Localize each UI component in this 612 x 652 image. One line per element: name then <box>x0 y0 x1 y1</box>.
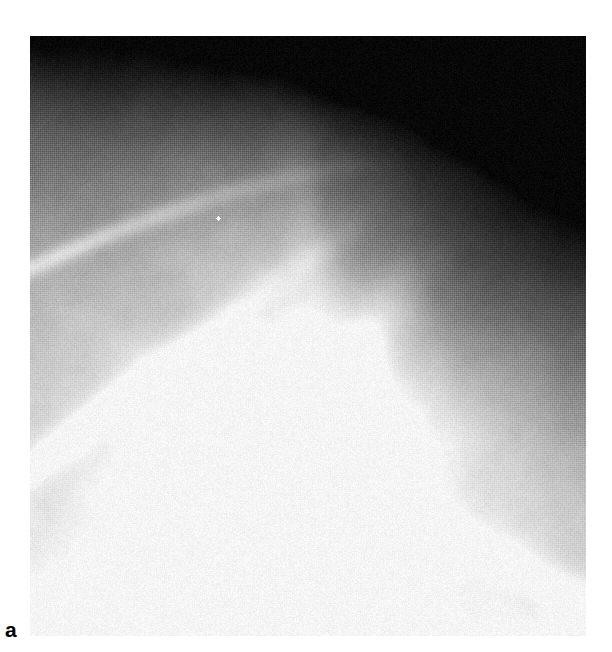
radiograph-image <box>30 36 586 636</box>
figure-root: a <box>0 0 612 652</box>
radiograph-plate <box>30 36 586 636</box>
panel-label-a: a <box>5 618 29 642</box>
